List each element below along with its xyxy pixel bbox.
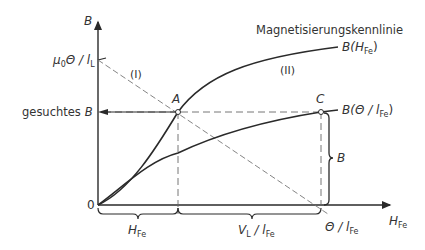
theta-label: Θ / lFe <box>325 220 359 236</box>
upper-curve-label: B(HFe) <box>342 40 378 56</box>
curve-b-theta <box>98 110 338 205</box>
brace-hfe-label: HFe <box>128 223 146 239</box>
y-axis-label: B <box>84 14 92 28</box>
magnetization-diagram: B μ0Θ / lL (I) gesuchtesB A C Magnetisie… <box>0 0 425 250</box>
x-axis-label: HFe <box>389 214 407 230</box>
lower-curve-label: B(Θ / lFe) <box>342 103 393 119</box>
point-a-label: A <box>171 92 180 106</box>
brace-vl-label: VL / lFe <box>238 223 275 239</box>
load-line-I <box>98 60 328 214</box>
brace-hfe <box>98 208 178 219</box>
diagram-svg: B μ0Θ / lL (I) gesuchtesB A C Magnetisie… <box>0 0 425 250</box>
sought-b-label: gesuchtesB <box>22 105 93 119</box>
chart-title: Magnetisierungskennlinie <box>256 23 403 37</box>
brace-b <box>324 113 333 205</box>
curve-II-label: (II) <box>280 64 295 77</box>
point-c-label: C <box>316 92 325 106</box>
origin-label: 0 <box>87 198 95 212</box>
line-I-label: (I) <box>130 68 142 81</box>
brace-vl <box>178 208 321 219</box>
point-a <box>176 110 181 115</box>
point-c <box>319 110 324 115</box>
mu-label: μ0Θ / lL <box>52 53 95 69</box>
brace-b-label: B <box>337 151 345 165</box>
y-tick-mu <box>98 58 106 60</box>
